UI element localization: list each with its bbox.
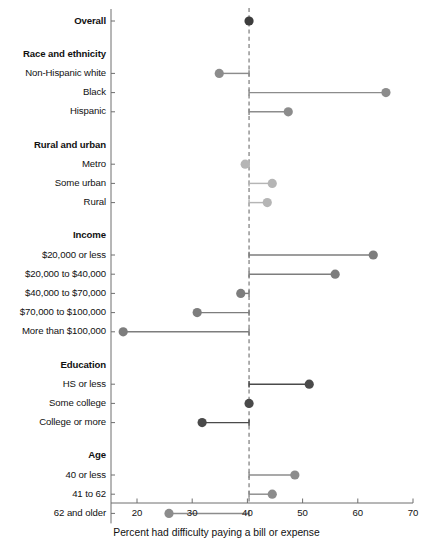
category-label: Rural xyxy=(84,196,106,207)
x-axis-title: Percent had difficulty paying a bill or … xyxy=(0,527,433,538)
category-label: 41 to 62 xyxy=(72,488,106,499)
x-tick-label: 40 xyxy=(227,507,267,518)
x-tick-label: 50 xyxy=(283,507,323,518)
data-point xyxy=(119,327,128,336)
category-label: Some college xyxy=(49,397,106,408)
x-tick-label: 70 xyxy=(393,507,433,518)
category-label: $20,000 to $40,000 xyxy=(25,268,106,279)
data-point xyxy=(215,69,224,78)
category-label: Non-Hispanic white xyxy=(25,67,106,78)
data-point xyxy=(198,418,207,427)
group-header-label: Education xyxy=(61,359,106,370)
x-tick-label: 60 xyxy=(338,507,378,518)
data-point xyxy=(284,107,293,116)
group-header-label: Income xyxy=(73,229,106,240)
data-point xyxy=(241,160,250,169)
data-point xyxy=(369,250,378,259)
data-point xyxy=(331,270,340,279)
category-label: $40,000 to $70,000 xyxy=(25,287,106,298)
x-tick-label: 30 xyxy=(172,507,212,518)
category-label: Overall xyxy=(74,15,106,26)
category-label: Black xyxy=(83,86,106,97)
category-label: 40 or less xyxy=(65,469,106,480)
data-point xyxy=(236,289,245,298)
data-point xyxy=(381,88,390,97)
category-label: College or more xyxy=(39,416,106,427)
category-label: Some urban xyxy=(55,177,106,188)
category-label: $70,000 to $100,000 xyxy=(20,306,106,317)
group-header-label: Age xyxy=(88,449,106,460)
data-point xyxy=(305,380,314,389)
data-point xyxy=(268,179,277,188)
category-label: Metro xyxy=(82,158,106,169)
category-label: $20,000 or less xyxy=(42,249,106,260)
group-header-label: Rural and urban xyxy=(34,139,106,150)
data-point xyxy=(244,399,253,408)
category-label: Hispanic xyxy=(70,105,106,116)
data-point xyxy=(290,470,299,479)
category-label: 62 and older xyxy=(54,507,106,518)
group-header-label: Race and ethnicity xyxy=(23,48,106,59)
data-point xyxy=(268,490,277,499)
dot-plot-chart: OverallRace and ethnicityNon-Hispanic wh… xyxy=(0,0,433,550)
category-label: More than $100,000 xyxy=(22,325,106,336)
category-label-column: OverallRace and ethnicityNon-Hispanic wh… xyxy=(0,0,106,550)
data-point xyxy=(193,308,202,317)
category-label: HS or less xyxy=(63,378,106,389)
data-point xyxy=(263,198,272,207)
x-tick-label: 20 xyxy=(117,507,157,518)
data-point xyxy=(244,16,253,25)
